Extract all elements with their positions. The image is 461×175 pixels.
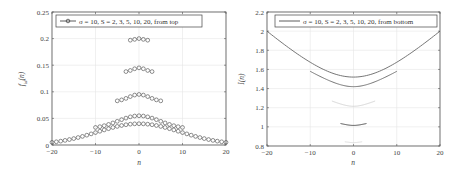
left-xlabel: n xyxy=(137,158,141,167)
y-tick-label: 2 xyxy=(261,28,265,36)
x-tick-label: 10 xyxy=(393,149,401,157)
right-legend-text: σ = 10, S = 2, 3, 5, 10, 20, from bottom xyxy=(303,18,414,26)
y-tick-label: 0.2 xyxy=(40,35,49,43)
right-xlabel: n xyxy=(351,158,355,167)
y-tick-label: 0.8 xyxy=(255,143,264,151)
left-chart: −20−100102000.050.10.150.20.25 σ = 10, S… xyxy=(17,9,230,168)
y-tick-label: 1.8 xyxy=(255,47,264,55)
right-chart: −20−10010200.811.21.41.61.822.2 σ = 10, … xyxy=(237,9,444,168)
y-tick-label: 1.6 xyxy=(255,66,264,74)
y-tick-label: 1.4 xyxy=(255,85,264,93)
x-tick-label: −10 xyxy=(90,148,101,156)
left-legend: σ = 10, S = 2, 3, 5, 10, 20, from top xyxy=(56,15,202,27)
y-tick-label: 0.15 xyxy=(37,62,50,70)
figure: −20−100102000.050.10.150.20.25 σ = 10, S… xyxy=(0,0,461,175)
x-tick-label: 10 xyxy=(179,148,187,156)
y-tick-label: 1.2 xyxy=(255,104,264,112)
y-tick-label: 2.2 xyxy=(255,9,264,17)
left-legend-text: σ = 10, S = 2, 3, 5, 10, 20, from top xyxy=(79,18,179,26)
right-legend: σ = 10, S = 2, 3, 5, 10, 20, from bottom xyxy=(275,15,437,27)
x-tick-label: 0 xyxy=(352,149,356,157)
y-tick-label: 1 xyxy=(261,123,265,131)
right-ylabel: I(n) xyxy=(237,73,246,86)
y-tick-label: 0 xyxy=(46,142,50,150)
y-tick-label: 0.1 xyxy=(40,88,49,96)
x-tick-label: 20 xyxy=(223,148,231,156)
y-tick-label: 0.05 xyxy=(37,115,50,123)
x-tick-label: 20 xyxy=(437,149,445,157)
x-tick-label: −10 xyxy=(305,149,316,157)
y-tick-label: 0.25 xyxy=(37,9,50,17)
left-ylabel: fid(n) xyxy=(17,71,28,86)
x-tick-label: 0 xyxy=(137,148,141,156)
